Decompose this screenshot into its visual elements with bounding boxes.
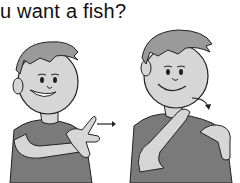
sign-figure-left: [0, 30, 120, 183]
sign-figure-right: [120, 22, 240, 183]
boy-illustration-left: [0, 30, 120, 183]
boy-illustration-right: [120, 22, 240, 183]
question-caption: u want a fish?: [0, 0, 126, 22]
